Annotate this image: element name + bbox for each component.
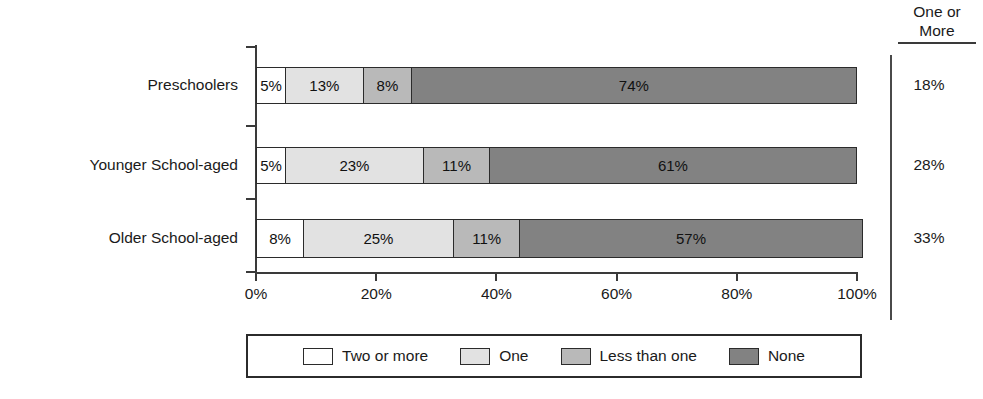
legend-item-0[interactable]: Two or more bbox=[303, 347, 428, 365]
legend-swatch-icon bbox=[303, 348, 333, 365]
legend-item-2[interactable]: Less than one bbox=[561, 347, 697, 365]
legend-swatch-icon bbox=[460, 348, 490, 365]
bar-segment-label: 57% bbox=[676, 230, 706, 247]
x-axis-line bbox=[255, 272, 858, 274]
one-or-more-header-line1: One or bbox=[893, 2, 981, 21]
x-axis-tick-label-5: 100% bbox=[837, 285, 877, 303]
category-label-1: Younger School-aged bbox=[89, 156, 238, 174]
one-or-more-value-0: 18% bbox=[893, 76, 965, 94]
x-axis-tick-label-3: 60% bbox=[601, 285, 632, 303]
stacked-bar-chart-figure: One or More 0%20%40%60%80%100% Preschool… bbox=[0, 0, 983, 399]
x-axis-tick-label-2: 40% bbox=[481, 285, 512, 303]
bar-segment-less: 8% bbox=[363, 67, 413, 104]
x-axis-tick-2 bbox=[495, 272, 497, 281]
bar-segment-label: 8% bbox=[377, 77, 399, 94]
one-or-more-header-rule bbox=[898, 42, 976, 44]
bar-segment-two: 5% bbox=[256, 67, 286, 104]
x-axis-tick-0 bbox=[255, 272, 257, 281]
one-or-more-divider-line bbox=[890, 55, 892, 320]
bar-segment-one: 25% bbox=[303, 219, 455, 258]
one-or-more-value-1: 28% bbox=[893, 156, 965, 174]
bar-segment-less: 11% bbox=[453, 219, 521, 258]
bar-segment-label: 25% bbox=[363, 230, 393, 247]
legend-label: One bbox=[499, 347, 528, 365]
bar-segment-label: 74% bbox=[619, 77, 649, 94]
bar-segment-one: 23% bbox=[285, 147, 425, 184]
legend: Two or moreOneLess than oneNone bbox=[246, 334, 862, 378]
bar-segment-label: 13% bbox=[309, 77, 339, 94]
bar-segment-label: 23% bbox=[339, 157, 369, 174]
bar-segment-label: 11% bbox=[472, 230, 501, 247]
bar-segment-label: 8% bbox=[269, 230, 291, 247]
x-axis-tick-3 bbox=[616, 272, 618, 281]
legend-swatch-icon bbox=[729, 348, 759, 365]
bar-segment-none: 61% bbox=[489, 147, 857, 184]
bar-segment-label: 5% bbox=[260, 157, 282, 174]
bar-segment-label: 61% bbox=[658, 157, 688, 174]
legend-label: Two or more bbox=[342, 347, 428, 365]
bar-segment-two: 8% bbox=[256, 219, 304, 258]
x-axis-tick-label-4: 80% bbox=[721, 285, 752, 303]
x-axis-tick-label-1: 20% bbox=[361, 285, 392, 303]
legend-item-1[interactable]: One bbox=[460, 347, 528, 365]
one-or-more-header: One or More bbox=[893, 2, 981, 40]
bar-segment-label: 5% bbox=[260, 77, 282, 94]
bar-segment-two: 5% bbox=[256, 147, 286, 184]
bar-row: 5%23%11%61% bbox=[256, 147, 857, 184]
y-axis-tick-2 bbox=[246, 198, 256, 200]
x-axis-tick-4 bbox=[736, 272, 738, 281]
bar-row: 8%25%11%57% bbox=[256, 219, 857, 258]
y-axis-tick-1 bbox=[246, 125, 256, 127]
category-label-2: Older School-aged bbox=[109, 229, 238, 247]
bar-row: 5%13%8%74% bbox=[256, 67, 857, 104]
one-or-more-header-line2: More bbox=[893, 21, 981, 40]
one-or-more-value-2: 33% bbox=[893, 229, 965, 247]
bar-segment-none: 57% bbox=[519, 219, 863, 258]
bar-segment-less: 11% bbox=[423, 147, 491, 184]
category-label-0: Preschoolers bbox=[148, 76, 238, 94]
bar-segment-none: 74% bbox=[411, 67, 857, 104]
legend-item-3[interactable]: None bbox=[729, 347, 805, 365]
legend-label: None bbox=[768, 347, 805, 365]
legend-swatch-icon bbox=[561, 348, 591, 365]
legend-label: Less than one bbox=[600, 347, 697, 365]
x-axis-tick-5 bbox=[856, 272, 858, 281]
x-axis-tick-label-0: 0% bbox=[245, 285, 267, 303]
x-axis-tick-1 bbox=[375, 272, 377, 281]
y-axis-tick-0 bbox=[246, 46, 256, 48]
bar-segment-one: 13% bbox=[285, 67, 365, 104]
bar-segment-label: 11% bbox=[442, 157, 471, 174]
